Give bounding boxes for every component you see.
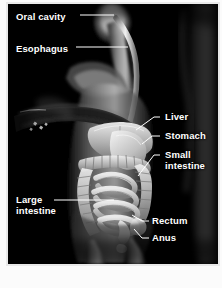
label-large-intestine-line2: intestine bbox=[16, 205, 56, 216]
photo-frame: Oral cavity Esophagus Liver Stomach Smal… bbox=[6, 2, 220, 266]
label-large-intestine-line1: Large bbox=[16, 194, 42, 205]
figure-root: Oral cavity Esophagus Liver Stomach Smal… bbox=[0, 0, 222, 288]
label-esophagus: Esophagus bbox=[16, 43, 68, 54]
label-small-intestine: Smallintestine bbox=[165, 149, 205, 171]
label-stomach: Stomach bbox=[165, 130, 206, 141]
label-anus: Anus bbox=[152, 232, 176, 243]
label-large-intestine: Largeintestine bbox=[16, 194, 56, 216]
anatomy-photo: Oral cavity Esophagus Liver Stomach Smal… bbox=[8, 4, 218, 264]
label-oral-cavity: Oral cavity bbox=[16, 11, 66, 22]
label-liver: Liver bbox=[165, 111, 188, 122]
label-small-intestine-line2: intestine bbox=[165, 160, 205, 171]
label-rectum: Rectum bbox=[152, 215, 187, 226]
label-small-intestine-line1: Small bbox=[165, 149, 191, 160]
